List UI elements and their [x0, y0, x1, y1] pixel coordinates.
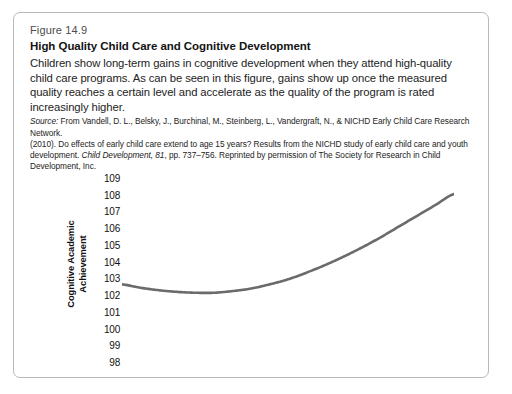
achievement-curve	[122, 194, 454, 293]
chart-plot-area: Cognitive AcademicAchievement 1091081071…	[14, 159, 489, 378]
x-tick-label: 2.5	[207, 373, 221, 378]
x-tick-label: 2.8	[263, 373, 277, 378]
y-axis-title-line-1: Cognitive Academic	[65, 220, 77, 307]
y-tick-label: 102	[92, 291, 120, 301]
x-tick-label: 3.6	[410, 373, 424, 378]
y-tick-label: 99	[92, 341, 120, 351]
x-axis-tick-labels: 22.12.22.32.42.52.62.72.82.933.13.23.33.…	[122, 371, 454, 378]
y-tick-label: 103	[92, 274, 120, 284]
y-tick-label: 100	[92, 325, 120, 335]
y-axis-title-text: Cognitive AcademicAchievement	[65, 220, 88, 307]
curve-svg	[122, 173, 454, 369]
x-tick-label: 3.8	[447, 373, 461, 378]
x-tick-label: 3.5	[392, 373, 406, 378]
x-tick-label: 2	[115, 373, 129, 378]
y-tick-label: 101	[92, 308, 120, 318]
x-tick-label: 3.7	[429, 373, 443, 378]
x-tick-label: 2.1	[133, 373, 147, 378]
x-tick-label: 2.3	[170, 373, 184, 378]
x-tick-label: 2.7	[244, 373, 258, 378]
y-tick-label: 98	[92, 358, 120, 368]
y-axis-title-line-2: Achievement	[76, 220, 88, 307]
source-line-1: From Vandell, D. L., Belsky, J., Burchin…	[30, 116, 469, 137]
figure-title: High Quality Child Care and Cognitive De…	[30, 39, 476, 54]
y-tick-label: 109	[92, 174, 120, 184]
figure-card: Figure 14.9 High Quality Child Care and …	[13, 12, 489, 378]
figure-number: Figure 14.9	[30, 23, 476, 38]
x-tick-label: 3.2	[336, 373, 350, 378]
y-tick-label: 108	[92, 191, 120, 201]
x-tick-label: 2.6	[226, 373, 240, 378]
y-tick-label: 107	[92, 207, 120, 217]
figure-description: Children show long-term gains in cogniti…	[30, 56, 476, 114]
x-tick-label: 2.4	[189, 373, 203, 378]
x-tick-label: 3	[299, 373, 313, 378]
y-axis-tick-labels: 1091081071061051041031021011009998	[92, 173, 120, 369]
figure-caption-block: Figure 14.9 High Quality Child Care and …	[30, 23, 476, 172]
y-tick-label: 105	[92, 241, 120, 251]
y-axis-title: Cognitive AcademicAchievement	[59, 189, 93, 339]
x-tick-label: 3.1	[318, 373, 332, 378]
x-tick-label: 3.3	[355, 373, 369, 378]
y-tick-label: 106	[92, 224, 120, 234]
chart-canvas	[122, 173, 454, 369]
source-label: Source:	[30, 116, 58, 126]
y-tick-label: 104	[92, 258, 120, 268]
source-line-2: (2010). Do effects of early child care e…	[30, 139, 468, 149]
x-tick-label: 3.4	[373, 373, 387, 378]
x-tick-label: 2.2	[152, 373, 166, 378]
x-tick-label: 2.9	[281, 373, 295, 378]
